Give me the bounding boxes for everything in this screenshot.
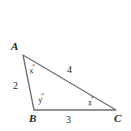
vertex-label-a: A xyxy=(11,41,18,52)
vertex-label-b: B xyxy=(29,113,36,124)
side-length-label-bc: 3 xyxy=(66,115,71,125)
triangle-outline xyxy=(0,0,131,131)
vertex-label-c: C xyxy=(114,113,121,124)
side-length-label-ab: 2 xyxy=(13,81,18,91)
side-length-label-ac: 4 xyxy=(67,65,72,75)
triangle-figure: A B C 2 3 4 x° y° z° xyxy=(0,0,131,131)
